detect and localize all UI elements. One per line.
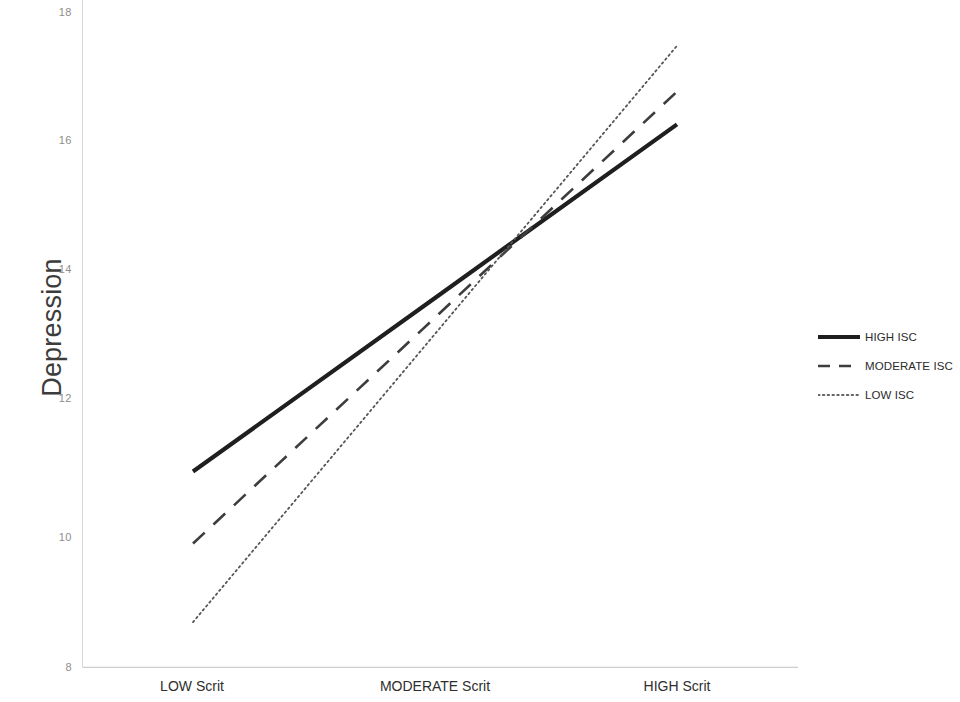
y-axis-tick-labels: 18 16 14 12 10 8 <box>10 0 72 702</box>
x-tick-label-low: LOW Scrit <box>82 678 302 694</box>
y-tick-label-16: 16 <box>38 134 72 146</box>
series-line-high-isc <box>193 124 677 471</box>
x-tick-label-high: HIGH Scrit <box>567 678 787 694</box>
series-line-low-isc <box>193 46 677 622</box>
series-line-moderate-isc <box>193 92 677 544</box>
series-layer <box>193 46 677 622</box>
legend-swatch-dotted-line-icon <box>818 388 862 402</box>
legend-swatch-solid-line-icon <box>818 330 862 344</box>
plot-canvas <box>82 0 798 668</box>
y-tick-label-12: 12 <box>38 392 72 404</box>
legend-swatch-dashed-line-icon <box>818 359 862 373</box>
plot-area <box>82 0 798 668</box>
legend-item-moderate-isc: MODERATE ISC <box>818 351 960 380</box>
legend-item-high-isc: HIGH ISC <box>818 322 960 351</box>
y-tick-label-14: 14 <box>38 263 72 275</box>
legend-label-moderate-isc: MODERATE ISC <box>865 360 953 372</box>
x-axis-tick-labels: LOW Scrit MODERATE Scrit HIGH Scrit <box>82 678 798 702</box>
legend-item-low-isc: LOW ISC <box>818 380 960 409</box>
interaction-plot: Depression 18 16 14 12 10 8 LOW Scrit MO… <box>0 0 960 702</box>
y-tick-label-10: 10 <box>38 531 72 543</box>
legend-label-low-isc: LOW ISC <box>865 389 914 401</box>
chart-legend: HIGH ISC MODERATE ISC LOW ISC <box>818 322 960 409</box>
y-tick-label-8: 8 <box>38 661 72 673</box>
y-tick-label-18: 18 <box>38 6 72 18</box>
legend-label-high-isc: HIGH ISC <box>865 331 917 343</box>
x-tick-label-moderate: MODERATE Scrit <box>325 678 545 694</box>
